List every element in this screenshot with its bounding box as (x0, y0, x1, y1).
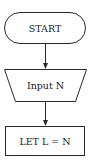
input-node: Input N (5, 70, 87, 102)
flowchart-diagram: START Input N LET L = N (0, 0, 91, 165)
connector-start-to-input (43, 44, 48, 70)
arrow-down-icon (43, 63, 48, 69)
assign-label: LET L = N (19, 136, 70, 147)
arrow-down-icon (43, 120, 48, 126)
start-terminator: START (5, 13, 86, 44)
assign-process-node: LET L = N (6, 127, 85, 156)
input-label: Input N (27, 80, 64, 91)
start-label: START (29, 23, 62, 34)
connector-input-to-assign (43, 102, 48, 127)
